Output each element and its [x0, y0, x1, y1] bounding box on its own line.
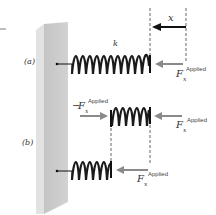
diagram-canvas — [0, 0, 216, 215]
force-superscript: Applied — [88, 98, 108, 104]
force-symbol: F — [176, 69, 183, 79]
edge-fragment — [0, 28, 6, 30]
force-symbol: F — [176, 120, 183, 130]
force-subscript: x — [183, 76, 186, 82]
wall — [36, 22, 68, 214]
force-symbol: F — [78, 101, 85, 111]
part-label-b: (b) — [22, 139, 33, 147]
spring-b-top — [111, 107, 150, 127]
part-label-a: (a) — [24, 58, 35, 66]
force-superscript: Applied — [187, 117, 207, 123]
force-symbol: F — [137, 174, 144, 184]
force-subscript: x — [85, 108, 88, 114]
wall-front-face — [44, 22, 68, 214]
spring-diagram: (a) (b) k x F x Applied − F x Applied F … — [0, 0, 216, 215]
force-superscript: Applied — [186, 66, 206, 72]
displacement-label: x — [168, 13, 174, 23]
wall-side-face — [36, 24, 44, 214]
force-subscript: x — [144, 181, 147, 187]
force-superscript: Applied — [148, 171, 168, 177]
spring-constant-label: k — [113, 40, 118, 48]
force-subscript: x — [183, 127, 186, 133]
spring-a — [56, 55, 150, 74]
